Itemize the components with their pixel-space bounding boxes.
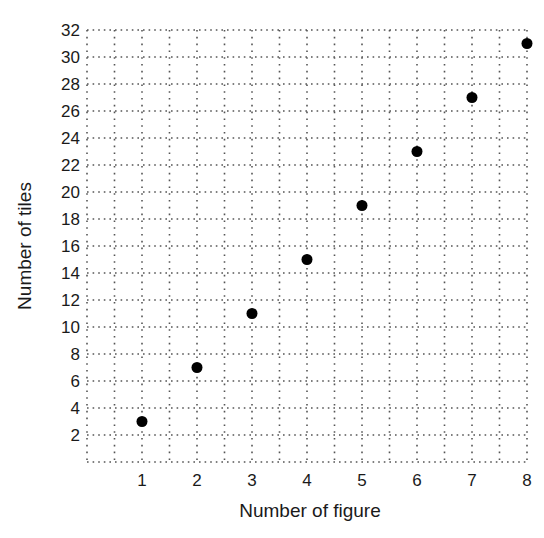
- y-tick-label: 14: [61, 264, 80, 283]
- data-point: [137, 416, 148, 427]
- x-tick-label: 2: [192, 471, 201, 490]
- y-tick-label: 4: [71, 399, 80, 418]
- y-tick-label: 24: [61, 129, 80, 148]
- y-tick-label: 30: [61, 48, 80, 67]
- x-tick-label: 5: [357, 471, 366, 490]
- y-tick-label: 18: [61, 210, 80, 229]
- data-point: [357, 200, 368, 211]
- grid-lines: [87, 30, 527, 462]
- y-tick-label: 22: [61, 156, 80, 175]
- x-axis-label: Number of figure: [239, 500, 381, 521]
- y-tick-label: 2: [71, 426, 80, 445]
- x-axis-ticks: 12345678: [137, 471, 531, 490]
- y-tick-label: 16: [61, 237, 80, 256]
- x-tick-label: 4: [302, 471, 311, 490]
- y-tick-label: 12: [61, 291, 80, 310]
- y-tick-label: 20: [61, 183, 80, 202]
- x-tick-label: 7: [467, 471, 476, 490]
- y-axis-label: Number of tiles: [14, 182, 35, 310]
- data-point: [302, 254, 313, 265]
- x-tick-label: 8: [522, 471, 531, 490]
- y-axis-ticks: 2468101214161820222426283032: [61, 21, 80, 445]
- x-tick-label: 6: [412, 471, 421, 490]
- y-tick-label: 10: [61, 318, 80, 337]
- y-tick-label: 6: [71, 372, 80, 391]
- data-point: [467, 92, 478, 103]
- y-tick-label: 26: [61, 102, 80, 121]
- x-tick-label: 3: [247, 471, 256, 490]
- data-point: [247, 308, 258, 319]
- y-tick-label: 8: [71, 345, 80, 364]
- y-tick-label: 32: [61, 21, 80, 40]
- scatter-chart: 2468101214161820222426283032 12345678 Nu…: [0, 0, 544, 538]
- x-tick-label: 1: [137, 471, 146, 490]
- data-points: [137, 38, 533, 427]
- data-point: [412, 146, 423, 157]
- data-point: [522, 38, 533, 49]
- data-point: [192, 362, 203, 373]
- y-tick-label: 28: [61, 75, 80, 94]
